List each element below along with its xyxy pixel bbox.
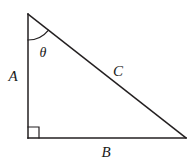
side-c-line [28,14,186,138]
side-label-c: C [113,64,123,79]
theta-arc-icon [28,30,48,40]
angle-label-theta: θ [40,46,47,60]
triangle-svg [0,0,194,162]
side-label-a: A [8,69,17,84]
right-angle-square-icon [28,127,39,138]
triangle-figure: A B C θ [0,0,194,162]
side-label-b: B [101,145,110,160]
